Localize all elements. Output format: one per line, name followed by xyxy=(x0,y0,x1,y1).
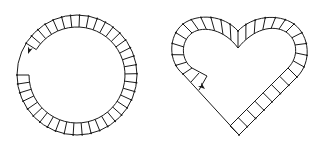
circular-track xyxy=(16,14,138,136)
diagram-svg xyxy=(0,0,323,145)
figure-canvas xyxy=(0,0,323,145)
circle-arrow-icon xyxy=(26,47,33,55)
heart-track xyxy=(171,16,308,135)
